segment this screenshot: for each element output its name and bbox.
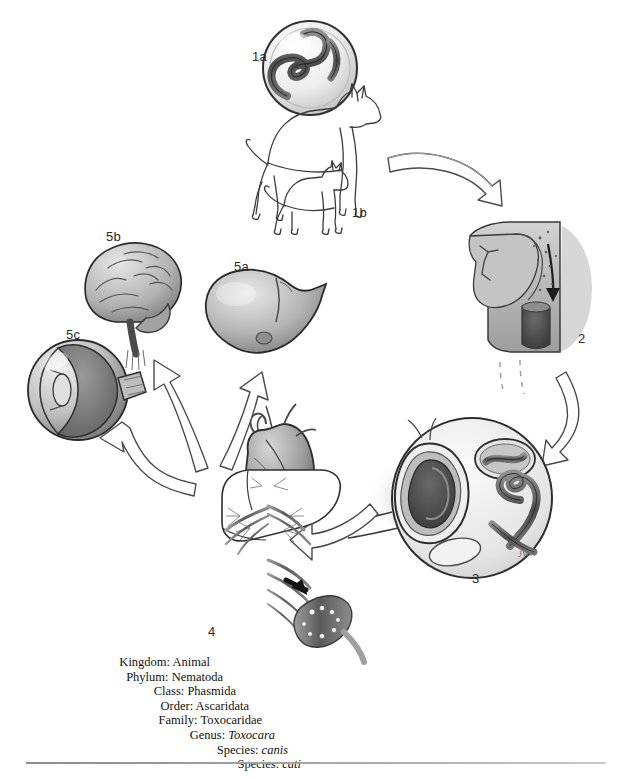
taxonomy-rank: Genus: [190,728,229,742]
stage-label-2: 2 [578,331,586,346]
taxonomy-row: Order: Ascaridata [18,699,318,714]
bottom-rule [26,762,606,764]
liver-outline [222,470,340,541]
taxonomy-value: Phasmida [187,684,236,698]
intestinal-segment [294,596,364,662]
taxonomy-value: Toxocara [228,728,275,742]
arrow-hosts-to-ingestion [388,153,502,206]
taxonomy-rank: Family: [159,713,201,727]
taxonomy-rank: Species: [237,757,282,771]
taxonomy-rank: Phylum: [126,670,172,684]
taxonomy-value: Animal [173,655,211,669]
taxonomy-value: Toxocaridae [200,713,262,727]
stage-5c-eye [28,340,146,440]
arrow-ingestion-to-intestine [542,372,579,466]
stage-label-5a: 5a [234,259,249,274]
taxonomy-rank: Species: [217,743,262,757]
brainstem [130,322,136,354]
gallbladder [256,332,272,344]
stage-5a-liver [206,270,326,353]
taxonomy-row: Kingdom: Animal [18,655,318,670]
taxonomy-row: Genus: Toxocara [18,728,318,743]
lens [53,374,71,406]
stage-label-1a: 1a [252,49,267,64]
stage-label-1b: 1b [352,205,367,220]
taxonomy-row: Class: Phasmida [18,684,318,699]
taxonomy-row: Family: Toxocaridae [18,713,318,728]
stage-label-5c: 5c [66,327,80,342]
artist-signature: JWK [518,547,536,559]
stage-label-4: 4 [208,624,216,639]
taxonomy-rank: Kingdom: [119,655,172,669]
arrow-circulation-to-eye [100,422,196,496]
stage-2-ingestion [469,222,592,394]
arrow-circulation-to-brain [154,360,208,472]
stage-label-3: 3 [472,571,480,586]
taxonomy-value: Ascaridata [196,699,249,713]
taxonomy-block: Kingdom: AnimalPhylum: NematodaClass: Ph… [18,655,318,772]
stage-1a-embryonated-egg [263,21,357,115]
taxonomy-row: Phylum: Nematoda [18,670,318,685]
stage-label-5b: 5b [106,229,121,244]
taxonomy-rank: Class: [154,684,188,698]
taxonomy-row: Species: canis [18,743,318,758]
taxonomy-row: Species: cati [18,757,318,772]
taxonomy-value: cati [282,757,301,771]
taxonomy-value: canis [262,743,288,757]
taxonomy-rank: Order: [160,699,195,713]
taxonomy-value: Nematoda [172,670,223,684]
